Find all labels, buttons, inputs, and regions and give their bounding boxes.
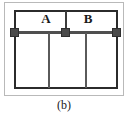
vertical-post-right: [85, 33, 87, 88]
figure-caption: (b): [0, 97, 128, 113]
vertical-post-left: [48, 33, 50, 88]
joint-node-middle: [61, 28, 70, 37]
bay-label-a: A: [38, 12, 54, 26]
joint-node-right: [112, 28, 121, 37]
bay-label-b: B: [80, 12, 96, 26]
figure-container: A B (b): [0, 0, 128, 118]
joint-node-left: [10, 28, 19, 37]
